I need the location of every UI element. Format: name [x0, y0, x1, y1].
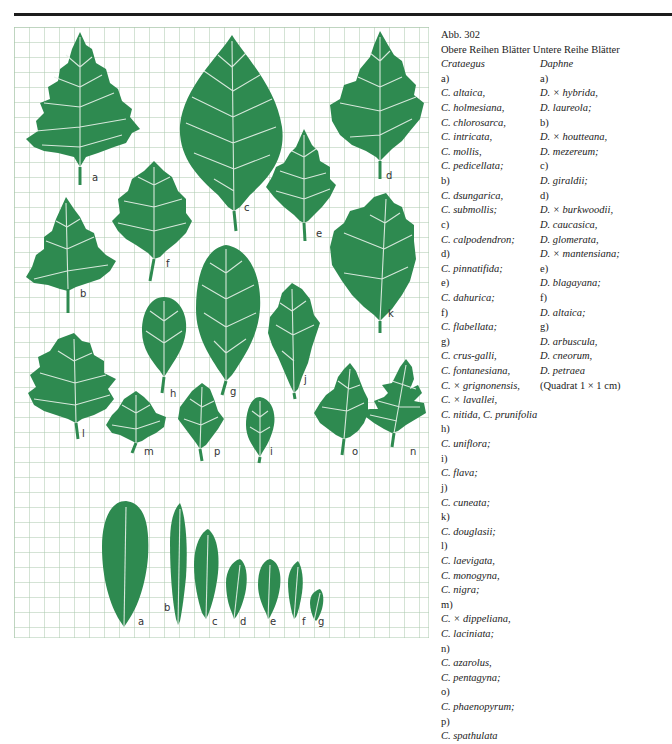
species-name: D. laureola;	[540, 101, 621, 116]
group-label: a)	[540, 72, 621, 87]
species-name: C. holmesiana,	[441, 101, 537, 116]
species-name: D. glomerata,	[540, 233, 621, 248]
header-left: Obere Reihen Blätter	[441, 44, 530, 55]
species-name: D. giraldii;	[540, 174, 621, 189]
group-label: n)	[441, 642, 537, 657]
species-name: C. pedicellata;	[441, 159, 537, 174]
daphne-label-g: g	[318, 617, 324, 627]
leaf-label-a: a	[92, 173, 98, 183]
species-name: C. mollis,	[441, 145, 537, 160]
header-right: Untere Reihe Blätter	[533, 44, 620, 55]
daphne-label-a: a	[138, 617, 144, 627]
species-name: C. × dippeliana,	[441, 612, 537, 627]
daphne-column: Daphnea)D. × hybrida,D. laureola;b)D. × …	[540, 57, 621, 393]
species-name: C. monogyna,	[441, 569, 537, 584]
species-name: D. cneorum,	[540, 349, 621, 364]
group-label: k)	[441, 510, 537, 525]
leaf-label-d: d	[386, 171, 392, 181]
group-label: p)	[441, 715, 537, 730]
grid-and-leaves	[14, 27, 429, 638]
daphne-label-d: d	[240, 617, 246, 627]
species-name: C. douglasii;	[441, 525, 537, 540]
species-name: C. × lavallei,	[441, 393, 537, 408]
group-label: g)	[540, 320, 621, 335]
leaf-label-e: e	[316, 229, 322, 239]
daphne-label-e: e	[270, 617, 276, 627]
species-name: D. blagayana;	[540, 276, 621, 291]
species-name: C. cuneata;	[441, 496, 537, 511]
genus-label: Daphne	[540, 57, 621, 72]
species-name: C. dsungarica,	[441, 189, 537, 204]
group-label: f)	[540, 291, 621, 306]
species-name: C. phaenopyrum;	[441, 700, 537, 715]
leaf-label-o: o	[352, 447, 358, 457]
leaf-label-p: p	[214, 447, 220, 457]
group-label: i)	[441, 452, 537, 467]
daphne-label-c: c	[212, 617, 218, 627]
group-label: c)	[540, 159, 621, 174]
species-name: C. pentagyna;	[441, 671, 537, 686]
leaf-label-c: c	[244, 203, 250, 213]
species-name: D. altaica;	[540, 306, 621, 321]
leaf-figure: a b c d e f g h i j k l m n o p a b c d …	[14, 27, 429, 638]
group-label: a)	[441, 72, 537, 87]
leaf-label-k: k	[388, 309, 394, 319]
group-label: g)	[441, 335, 537, 350]
species-name: D. arbuscula,	[540, 335, 621, 350]
leaf-label-b: b	[80, 289, 86, 299]
species-name: D. × mantensiana;	[540, 247, 621, 262]
group-label: f)	[441, 306, 537, 321]
leaf-label-n: n	[410, 447, 416, 457]
leaf-label-h: h	[170, 389, 176, 399]
scale-note: (Quadrat 1 × 1 cm)	[540, 379, 621, 394]
figure-caption: Abb. 302 Obere Reihen Blätter Untere Rei…	[441, 28, 672, 57]
species-name: C. flabellata;	[441, 320, 537, 335]
daphne-label-f: f	[302, 617, 306, 627]
crataegus-column: Crataegusa)C. altaica,C. holmesiana,C. c…	[441, 57, 537, 744]
species-name: C. calpodendron;	[441, 233, 537, 248]
group-label: d)	[540, 189, 621, 204]
figure-number: Abb. 302	[441, 28, 672, 43]
species-name: C. × grignonensis,	[441, 379, 537, 394]
species-name: C. crus-galli,	[441, 349, 537, 364]
species-name: C. altaica,	[441, 86, 537, 101]
species-name: C. laciniata;	[441, 627, 537, 642]
species-name: C. fontanesiana,	[441, 364, 537, 379]
group-label: c)	[441, 218, 537, 233]
leaf-label-g: g	[230, 387, 236, 397]
group-label: b)	[540, 116, 621, 131]
group-label: o)	[441, 685, 537, 700]
species-name: C. nitida, C. prunifolia	[441, 408, 537, 423]
species-name: C. azarolus,	[441, 656, 537, 671]
leaf-label-i: i	[270, 447, 273, 457]
group-label: e)	[540, 262, 621, 277]
species-name: C. intricata,	[441, 130, 537, 145]
species-name: C. uniflora;	[441, 437, 537, 452]
species-name: D. × burkwoodii,	[540, 203, 621, 218]
species-name: D. mezereum;	[540, 145, 621, 160]
group-label: l)	[441, 539, 537, 554]
genus-label: Crataegus	[441, 57, 537, 72]
species-name: D. × hybrida,	[540, 86, 621, 101]
group-label: m)	[441, 598, 537, 613]
group-label: d)	[441, 247, 537, 262]
group-label: j)	[441, 481, 537, 496]
group-label: h)	[441, 422, 537, 437]
species-name: C. submollis;	[441, 203, 537, 218]
group-label: e)	[441, 276, 537, 291]
species-name: C. flava;	[441, 466, 537, 481]
top-rule	[14, 13, 672, 16]
species-name: D. × houtteana,	[540, 130, 621, 145]
leaf-label-l: l	[82, 429, 85, 439]
species-name: C. dahurica;	[441, 291, 537, 306]
species-name: C. nigra;	[441, 583, 537, 598]
leaf-label-m: m	[144, 447, 154, 457]
species-name: C. pinnatifida;	[441, 262, 537, 277]
daphne-label-b: b	[164, 603, 170, 613]
group-label: b)	[441, 174, 537, 189]
species-name: C. laevigata,	[441, 554, 537, 569]
leaf-label-j: j	[304, 375, 307, 385]
leaf-label-f: f	[166, 259, 170, 269]
caption-headers: Obere Reihen Blätter Untere Reihe Blätte…	[441, 43, 672, 58]
species-name: D. petraea	[540, 364, 621, 379]
